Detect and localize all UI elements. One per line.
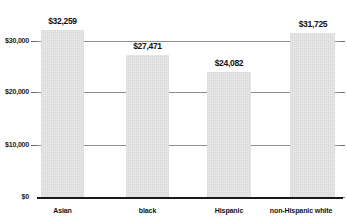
tick-mark-left-30000 <box>31 41 37 42</box>
category-label-hispanic: Hispanic <box>202 206 256 215</box>
tick-mark-right-30000 <box>340 41 345 42</box>
bar-value-label-hispanic: $24,082 <box>202 58 256 68</box>
bar-black <box>126 55 169 197</box>
category-label-non-hispanic-white: non-Hispanic white <box>258 206 344 215</box>
tick-mark-left-20000 <box>31 92 37 93</box>
x-axis-baseline <box>37 197 343 199</box>
category-label-asian: Asian <box>36 206 89 215</box>
y-axis-label-10000: $10,000 <box>5 141 29 149</box>
tick-mark-right-20000 <box>340 92 345 93</box>
y-axis-label-30000: $30,000 <box>5 37 29 45</box>
tick-mark-right-10000 <box>340 145 345 146</box>
y-axis-label-20000: $20,000 <box>5 88 29 96</box>
bar-chart: $30,000 $20,000 $10,000 $0 $32,259 $27,4… <box>0 0 347 224</box>
plot-area: $30,000 $20,000 $10,000 $0 $32,259 $27,4… <box>0 0 347 224</box>
category-label-black: black <box>121 206 174 215</box>
bar-hispanic <box>207 72 251 197</box>
bar-value-label-black: $27,471 <box>121 41 174 51</box>
bar-value-label-asian: $32,259 <box>36 16 89 26</box>
bar-non-hispanic-white <box>290 33 335 197</box>
tick-mark-left-10000 <box>31 145 37 146</box>
bar-asian <box>41 30 84 197</box>
y-axis-label-0: $0 <box>22 193 29 201</box>
bar-value-label-non-hispanic-white: $31,725 <box>286 19 340 29</box>
